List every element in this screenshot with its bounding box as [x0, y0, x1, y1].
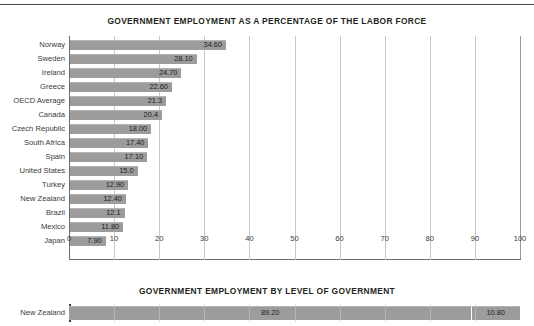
category-label: South Africa	[0, 136, 65, 150]
segment-value-label: 10.80	[471, 306, 520, 320]
bar-value-label: 7.90	[69, 234, 102, 248]
bar-row: Spain17.10	[69, 150, 520, 164]
chart-title-level-of-government: GOVERNMENT EMPLOYMENT BY LEVEL OF GOVERN…	[0, 286, 534, 296]
category-label: New Zealand	[0, 192, 65, 206]
bar-row: Czech Republic18.00	[69, 122, 520, 136]
category-label: OECD Average	[0, 94, 65, 108]
bar-value-label: 11.80	[86, 220, 119, 234]
category-label: Spain	[0, 150, 65, 164]
category-label: Norway	[0, 38, 65, 52]
x-tick-40: 40	[245, 234, 253, 243]
bar-row: Norway34.60	[69, 38, 520, 52]
category-label: Ireland	[0, 66, 65, 80]
x-tick-90: 90	[471, 234, 479, 243]
bar-value-label: 24.70	[144, 66, 177, 80]
category-label-new-zealand: New Zealand	[3, 306, 65, 320]
bar-row: Ireland24.70	[69, 66, 520, 80]
bar-row: Turkey12.90	[69, 178, 520, 192]
bar-value-label: 18.00	[114, 122, 147, 136]
x-tick-10: 10	[110, 234, 118, 243]
bar-value-label: 12.1	[88, 206, 121, 220]
bar-value-label: 15.0	[101, 164, 134, 178]
category-label: Greece	[0, 80, 65, 94]
bar-row: New Zealand12.40	[69, 192, 520, 206]
segment-value-label: 89.20	[69, 306, 471, 320]
bar-value-label: 17.10	[110, 150, 143, 164]
bar-value-label: 12.90	[91, 178, 124, 192]
bar-row: OECD Average21.3	[69, 94, 520, 108]
category-label: Japan	[0, 234, 65, 248]
level-of-government-chart-panel: GOVERNMENT EMPLOYMENT BY LEVEL OF GOVERN…	[0, 278, 534, 326]
bar-value-label: 28.10	[160, 52, 193, 66]
bar-value-label: 17.40	[111, 136, 144, 150]
bar-row: Brazil12.1	[69, 206, 520, 220]
x-tick-0: 0	[67, 234, 71, 243]
bar-row: South Africa17.40	[69, 136, 520, 150]
bar-row: Mexico11.80	[69, 220, 520, 234]
bar-row: Canada20.4	[69, 108, 520, 122]
plot-area-labor-force: Norway34.60Sweden28.10Ireland24.70Greece…	[69, 36, 521, 260]
x-tick-30: 30	[200, 234, 208, 243]
x-tick-50: 50	[290, 234, 298, 243]
x-tick-70: 70	[380, 234, 388, 243]
x-tick-80: 80	[426, 234, 434, 243]
x-tick-60: 60	[335, 234, 343, 243]
axis-line-right	[520, 36, 521, 260]
x-tick-20: 20	[155, 234, 163, 243]
category-label: Canada	[0, 108, 65, 122]
bar-value-label: 20.4	[125, 108, 158, 122]
category-label: Brazil	[0, 206, 65, 220]
plot-area-level-of-government: New Zealand 89.2010.80	[69, 304, 521, 322]
bar-value-label: 34.60	[189, 38, 222, 52]
bar-row: Sweden28.10	[69, 52, 520, 66]
category-label: United States	[0, 164, 65, 178]
bar-row: Greece22.60	[69, 80, 520, 94]
category-label: Turkey	[0, 178, 65, 192]
bar-row: United States15.0	[69, 164, 520, 178]
category-label: Sweden	[0, 52, 65, 66]
bar-value-label: 21.3	[129, 94, 162, 108]
labor-force-chart-panel: GOVERNMENT EMPLOYMENT AS A PERCENTAGE OF…	[0, 8, 534, 274]
top-divider-rule	[0, 4, 534, 5]
category-label: Mexico	[0, 220, 65, 234]
chart-title-labor-force: GOVERNMENT EMPLOYMENT AS A PERCENTAGE OF…	[0, 16, 534, 26]
bar-value-label: 22.60	[135, 80, 168, 94]
bar-value-label: 12.40	[89, 192, 122, 206]
category-label: Czech Republic	[0, 122, 65, 136]
x-tick-100: 100	[514, 234, 527, 243]
